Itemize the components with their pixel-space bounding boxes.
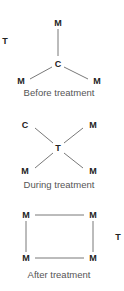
caption-after-treatment: After treatment <box>28 270 91 280</box>
node-after-top-right-m: M <box>89 211 97 220</box>
node-before-top-m: M <box>54 19 62 28</box>
node-during-bottom-left-m: M <box>21 167 29 176</box>
edge-line <box>64 128 83 143</box>
edge-line <box>30 67 52 79</box>
node-before-right-m: M <box>93 77 101 86</box>
node-after-top-left-m: M <box>22 211 30 220</box>
edge-line <box>64 153 83 168</box>
node-during-top-right-m: M <box>89 121 97 130</box>
caption-during-treatment: During treatment <box>24 180 95 190</box>
edge-line <box>64 67 88 79</box>
node-during-top-left-c: C <box>22 121 29 130</box>
node-before-center-c: C <box>55 60 62 69</box>
caption-before-treatment: Before treatment <box>24 88 95 98</box>
node-after-bottom-right-m: M <box>89 254 97 263</box>
edge-line <box>35 153 53 168</box>
edge-line <box>35 128 53 143</box>
node-after-bottom-left-m: M <box>22 254 30 263</box>
node-before-left-m: M <box>17 77 25 86</box>
node-during-bottom-right-m: M <box>89 167 97 176</box>
node-after-t: T <box>115 233 121 242</box>
node-during-center-t: T <box>55 144 61 153</box>
diagram-lines <box>0 0 124 291</box>
node-before-t: T <box>2 37 8 46</box>
